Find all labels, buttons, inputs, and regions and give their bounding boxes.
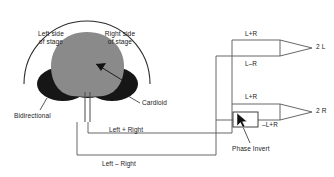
- summing-junction-right: [280, 104, 312, 120]
- output-label-left: 2 L: [316, 43, 325, 51]
- wire-left-minus-right: [77, 122, 216, 155]
- label-matrix-top-sum-b: L–R: [245, 60, 257, 68]
- label-cardioid: Cardioid: [142, 99, 167, 107]
- label-left-side-of-stage-line2: of stage: [28, 38, 74, 46]
- phase-invert-leader-line: [243, 127, 250, 143]
- label-left-minus-right: Left – Right: [102, 160, 136, 168]
- cardioid-leader-line: [128, 96, 140, 103]
- output-label-right: 2 R: [316, 107, 327, 115]
- label-right-side-of-stage-line1: Right side: [96, 30, 144, 38]
- label-matrix-top-sum-a: L+R: [245, 30, 257, 38]
- bidirectional-leader-line: [40, 98, 47, 110]
- diagram-canvas: [0, 0, 334, 177]
- label-bidirectional: Bidirectional: [14, 112, 51, 120]
- label-matrix-bottom-sum-a: L+R: [245, 93, 257, 101]
- label-right-side-of-stage-line2: of stage: [96, 38, 144, 46]
- mid-side-matrix-figure: Left side of stage Right side of stage C…: [0, 0, 334, 177]
- label-left-plus-right: Left + Right: [109, 126, 143, 134]
- label-phase-invert: Phase Invert: [232, 145, 270, 153]
- label-left-side-of-stage-line1: Left side: [28, 30, 74, 38]
- wire-side-riser: [216, 56, 280, 155]
- summing-junction-left: [280, 40, 312, 56]
- label-matrix-bottom-sum-b: –L+R: [262, 121, 278, 129]
